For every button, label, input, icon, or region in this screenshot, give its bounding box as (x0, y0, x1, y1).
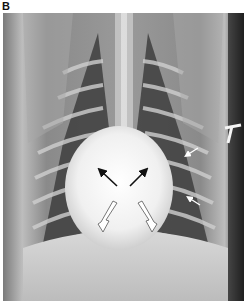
thoracic-radiograph (3, 13, 244, 301)
radiograph-illustration (3, 13, 244, 301)
panel-label: B (2, 0, 10, 12)
